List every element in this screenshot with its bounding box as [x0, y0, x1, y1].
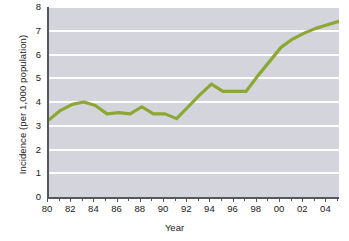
x-axis-tick-mark [291, 197, 292, 201]
x-axis-tick-mark [70, 197, 71, 202]
y-axis-tick-label: 0 [26, 192, 41, 202]
x-axis-tick-mark [151, 197, 152, 201]
y-axis-tick-label: 6 [26, 50, 41, 60]
x-axis-tick-label: 00 [269, 203, 289, 214]
x-axis-tick-mark [175, 197, 176, 201]
plot-area [47, 7, 339, 199]
x-axis-tick-mark [117, 197, 118, 202]
x-axis-tick-label: 80 [37, 203, 57, 214]
x-axis-tick-label: 98 [246, 203, 266, 214]
x-axis-tick-mark [128, 197, 129, 201]
x-axis-tick-label: 84 [83, 203, 103, 214]
x-axis-tick-label: 92 [176, 203, 196, 214]
x-axis-tick-mark [256, 197, 257, 202]
y-axis-tick-label: 4 [26, 97, 41, 107]
incidence-line-chart: Incidence (per 1,000 population) 8765432… [0, 0, 349, 241]
y-axis-tick-label: 2 [26, 145, 41, 155]
x-axis-tick-mark [82, 197, 83, 201]
x-axis-tick-mark [186, 197, 187, 202]
x-axis-tick-mark [244, 197, 245, 201]
y-axis-tick-label: 5 [26, 73, 41, 83]
x-axis-tick-mark [59, 197, 60, 201]
x-axis-tick-mark [198, 197, 199, 201]
x-axis-tick-label: 96 [223, 203, 243, 214]
x-axis-tick-mark [279, 197, 280, 202]
y-axis-tick-label: 3 [26, 121, 41, 131]
x-axis-tick-label: 94 [199, 203, 219, 214]
x-axis-tick-mark [93, 197, 94, 202]
x-axis-tick-label: 04 [315, 203, 335, 214]
y-axis-tick-label: 1 [26, 168, 41, 178]
plot-inner [49, 7, 339, 197]
x-axis-tick-mark [337, 197, 338, 201]
x-axis-tick-mark [140, 197, 141, 202]
x-axis-tick-label: 90 [153, 203, 173, 214]
x-axis-title: Year [0, 222, 349, 233]
x-axis-tick-mark [105, 197, 106, 201]
x-axis-tick-mark [314, 197, 315, 201]
x-axis-tick-label: 02 [292, 203, 312, 214]
x-axis-tick-mark [325, 197, 326, 202]
y-axis-tick-label: 8 [26, 2, 41, 12]
x-axis-tick-mark [209, 197, 210, 202]
x-axis-tick-mark [267, 197, 268, 201]
x-axis-tick-mark [47, 197, 48, 202]
x-axis-tick-label: 86 [107, 203, 127, 214]
x-axis-tick-mark [163, 197, 164, 202]
series-incidence [49, 7, 339, 197]
x-axis-tick-mark [221, 197, 222, 201]
y-axis-tick-label: 7 [26, 26, 41, 36]
x-axis-tick-label: 82 [60, 203, 80, 214]
x-axis-tick-mark [233, 197, 234, 202]
x-axis-tick-label: 88 [130, 203, 150, 214]
x-axis-tick-mark [302, 197, 303, 202]
